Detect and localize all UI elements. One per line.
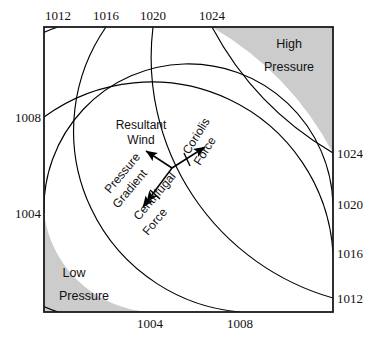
high-pressure-label-line1: High xyxy=(276,37,302,51)
bottom-axis-labels: 1004 1008 xyxy=(137,316,253,331)
right-tick-label: 1012 xyxy=(337,291,363,306)
left-tick-label: 1004 xyxy=(15,206,42,221)
bottom-tick-label: 1008 xyxy=(227,316,253,331)
resultant-wind-label-line1: Resultant xyxy=(116,118,167,132)
top-tick-label: 1020 xyxy=(140,8,166,23)
left-axis-labels: 1008 1004 xyxy=(15,110,42,221)
low-pressure-label-line1: Low xyxy=(63,266,87,280)
top-tick-label: 1012 xyxy=(45,8,71,23)
top-tick-label: 1024 xyxy=(199,8,226,23)
high-pressure-label-line2: Pressure xyxy=(264,60,314,74)
top-axis-labels: 1012 1016 1020 1024 xyxy=(45,8,226,23)
right-tick-label: 1016 xyxy=(337,246,364,261)
right-tick-label: 1024 xyxy=(337,146,364,161)
gradient-wind-diagram: High Pressure Low Pressure Resultant Win… xyxy=(0,0,381,343)
low-pressure-label-line2: Pressure xyxy=(59,289,109,303)
resultant-wind-label-line2: Wind xyxy=(127,133,154,147)
right-axis-labels: 1024 1020 1016 1012 xyxy=(337,146,364,306)
right-tick-label: 1020 xyxy=(337,197,363,212)
top-tick-label: 1016 xyxy=(93,8,120,23)
bottom-tick-label: 1004 xyxy=(137,316,164,331)
left-tick-label: 1008 xyxy=(15,110,41,125)
